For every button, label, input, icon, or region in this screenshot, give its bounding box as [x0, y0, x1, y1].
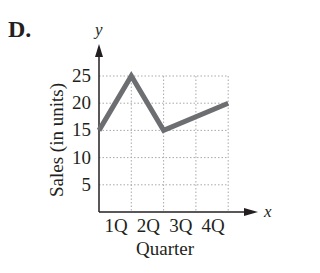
x-axis-arrow-icon — [244, 208, 258, 216]
y-axis-arrow-icon — [95, 44, 103, 57]
x-tick-label: 1Q — [99, 216, 133, 235]
x-tick-label: 3Q — [164, 216, 198, 235]
x-axis-label: Quarter — [136, 238, 194, 260]
x-axis-name: x — [264, 202, 272, 222]
y-axis-name: y — [95, 20, 103, 40]
x-tick-label: 4Q — [196, 216, 230, 235]
x-tick-label: 2Q — [131, 216, 165, 235]
y-axis-label: Sales (in units) — [46, 83, 68, 197]
